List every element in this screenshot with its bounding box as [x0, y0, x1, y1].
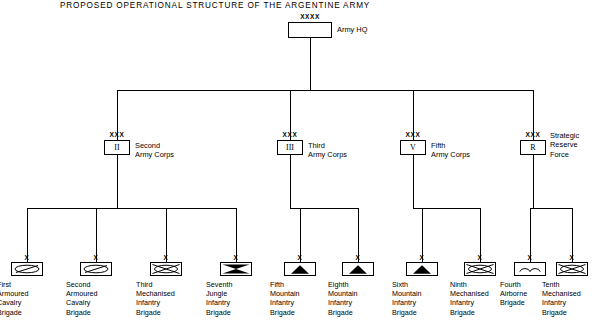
echelon-marker-brigade-3: X [150, 255, 182, 261]
corps-designator-1: II [105, 141, 129, 154]
echelon-marker-corps-4: XXX [520, 132, 546, 138]
brigade-box-6[interactable] [342, 262, 374, 276]
corps-substem-1 [117, 155, 118, 208]
corps-designator-4: R [521, 141, 545, 154]
echelon-marker-corps-3: XXX [400, 132, 426, 138]
corps-label-line: Reserve [550, 140, 579, 149]
corps-distribution-bus [117, 90, 534, 91]
corps-designator-2: III [278, 141, 302, 154]
hq-stem-line [310, 38, 311, 90]
brigade-box-10[interactable] [556, 262, 588, 276]
brigade-label-line: Brigade [136, 308, 206, 317]
brigade-label-line: Armoured [0, 289, 67, 298]
corps-label-3: FifthArmy Corps [431, 141, 470, 160]
unit-corps-1: IIXXXSecondArmy Corps [104, 140, 130, 155]
brigade-label-line: Mechanised [136, 289, 206, 298]
brigade-label-line: Brigade [450, 308, 520, 317]
unit-army-hq: XXXXArmy HQ [288, 22, 332, 38]
corps-label-2: ThirdArmy Corps [308, 141, 347, 160]
brigade-box-4[interactable] [220, 262, 252, 276]
brigade-label-line: Infantry [136, 298, 206, 307]
unit-brigade-10: XTenthMechanisedInfantryBrigade [556, 262, 588, 276]
brigade-box-1[interactable] [11, 262, 43, 276]
unit-brigade-1: XFirstArmouredCavalryBrigade [11, 262, 43, 276]
brigade-label-line: Third [136, 280, 206, 289]
brigade-distribution-bus-4 [530, 208, 573, 209]
echelon-marker-brigade-4: X [220, 255, 252, 261]
brigade-label-2: SecondArmouredCavalryBrigade [66, 280, 136, 317]
echelon-marker-brigade-10: X [556, 255, 588, 261]
corps-designator-3: V [401, 141, 425, 154]
echelon-marker-army: XXXX [288, 14, 332, 20]
corps-label-line: Army Corps [135, 150, 174, 159]
corps-box-4[interactable]: R [520, 140, 546, 155]
army-hq-box[interactable] [288, 22, 332, 38]
unit-corps-4: RXXXStrategicReserveForce [520, 140, 546, 155]
brigade-label-line: Brigade [0, 308, 67, 317]
brigade-label-4: SeventhJungleInfantryBrigade [206, 280, 276, 317]
unit-corps-3: VXXXFifthArmy Corps [400, 140, 426, 155]
unit-brigade-9: XFourthAirborneBrigade [514, 262, 546, 276]
corps-label-line: Army Corps [308, 150, 347, 159]
brigade-label-line: Brigade [206, 308, 276, 317]
brigade-label-line: Cavalry [66, 298, 136, 307]
unit-brigade-8: XNinthMechanisedInfantryBrigade [464, 262, 496, 276]
corps-substem-4 [533, 155, 534, 208]
brigade-box-9[interactable] [514, 262, 546, 276]
brigade-box-2[interactable] [80, 262, 112, 276]
unit-brigade-7: XSixthMountainInfantryBrigade [406, 262, 438, 276]
unit-brigade-5: XFifthMountainInfantryBrigade [284, 262, 316, 276]
echelon-marker-brigade-9: X [514, 255, 546, 261]
page-title: PROPOSED OPERATIONAL STRUCTURE OF THE AR… [60, 1, 370, 10]
brigade-label-line: Brigade [542, 308, 596, 317]
brigade-label-line: Brigade [66, 308, 136, 317]
brigade-distribution-bus-1 [27, 208, 237, 209]
brigade-box-7[interactable] [406, 262, 438, 276]
corps-label-line: Force [550, 150, 579, 159]
corps-substem-3 [413, 155, 414, 208]
echelon-marker-brigade-1: X [11, 255, 43, 261]
echelon-marker-corps-2: XXX [277, 132, 303, 138]
brigade-label-line: Mountain [328, 289, 398, 298]
brigade-label-line: Infantry [328, 298, 398, 307]
brigade-label-line: Brigade [328, 308, 398, 317]
org-chart-canvas: PROPOSED OPERATIONAL STRUCTURE OF THE AR… [0, 0, 596, 333]
corps-box-1[interactable]: II [104, 140, 130, 155]
echelon-marker-corps-1: XXX [104, 132, 130, 138]
brigade-label-10: TenthMechanisedInfantryBrigade [542, 280, 596, 317]
echelon-marker-brigade-8: X [464, 255, 496, 261]
brigade-box-5[interactable] [284, 262, 316, 276]
unit-brigade-4: XSeventhJungleInfantryBrigade [220, 262, 252, 276]
army-hq-label: Army HQ [337, 25, 367, 34]
corps-box-2[interactable]: III [277, 140, 303, 155]
brigade-label-line: Jungle [206, 289, 276, 298]
brigade-label-line: Second [66, 280, 136, 289]
echelon-marker-brigade-2: X [80, 255, 112, 261]
brigade-label-line: Cavalry [0, 298, 67, 307]
brigade-label-line: First [0, 280, 67, 289]
brigade-box-3[interactable] [150, 262, 182, 276]
corps-label-line: Second [135, 141, 174, 150]
brigade-label-line: Tenth [542, 280, 596, 289]
brigade-label-line: Mechanised [542, 289, 596, 298]
brigade-label-1: FirstArmouredCavalryBrigade [0, 280, 67, 317]
unit-corps-2: IIIXXXThirdArmy Corps [277, 140, 303, 155]
corps-label-line: Fifth [431, 141, 470, 150]
unit-brigade-2: XSecondArmouredCavalryBrigade [80, 262, 112, 276]
corps-label-line: Strategic [550, 131, 579, 140]
corps-label-1: SecondArmy Corps [135, 141, 174, 160]
echelon-marker-brigade-6: X [342, 255, 374, 261]
corps-substem-2 [290, 155, 291, 208]
brigade-label-line: Eighth [328, 280, 398, 289]
brigade-label-6: EighthMountainInfantryBrigade [328, 280, 398, 317]
corps-box-3[interactable]: V [400, 140, 426, 155]
brigade-box-8[interactable] [464, 262, 496, 276]
brigade-label-line: Seventh [206, 280, 276, 289]
brigade-label-line: Infantry [206, 298, 276, 307]
corps-label-line: Third [308, 141, 347, 150]
unit-brigade-6: XEighthMountainInfantryBrigade [342, 262, 374, 276]
brigade-distribution-bus-3 [413, 208, 481, 209]
brigade-label-line: Armoured [66, 289, 136, 298]
unit-brigade-3: XThirdMechanisedInfantryBrigade [150, 262, 182, 276]
brigade-label-line: Infantry [542, 298, 596, 307]
